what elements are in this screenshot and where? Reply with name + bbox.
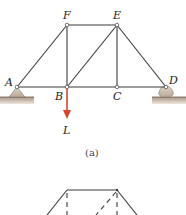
ground-left [0,97,34,104]
joint-label-b: B [54,90,63,103]
member-af [17,25,67,87]
lower-joint-e-dot [116,189,118,191]
joint-d-pin [164,85,168,89]
joint-label-a: A [4,76,13,89]
lower-left-diagonal [47,190,67,215]
joint-f-pin [65,23,69,27]
member-ed [117,25,166,87]
joint-a-pin [15,85,19,89]
figure-caption: (a) [85,147,99,158]
load-arrow-head [63,110,71,119]
load-label: L [62,124,70,137]
joint-label-e: E [112,9,121,22]
joint-b-pin [65,85,69,89]
joint-label-d: D [168,74,178,87]
ground-right [152,97,186,104]
truss-diagram: F E A D B C L (a) [0,0,186,215]
joint-label-f: F [62,9,71,22]
joint-label-c: C [113,90,122,103]
member-be [67,25,117,87]
lower-right-diagonal [117,190,137,215]
lower-center-diagonal-dashed [96,192,116,215]
joint-c-pin [115,85,119,89]
joint-e-pin [115,23,119,27]
